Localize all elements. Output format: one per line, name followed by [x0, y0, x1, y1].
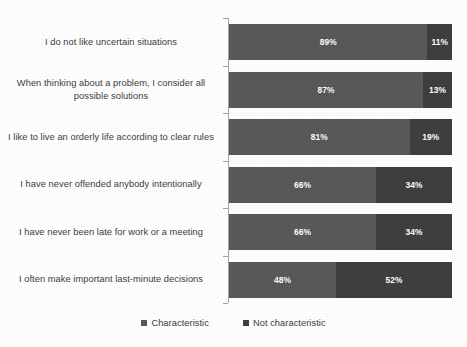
square-marker-icon [141, 320, 147, 326]
bar-value-label: 89% [320, 37, 337, 47]
category-label: I have never been late for work or a mee… [7, 226, 215, 238]
stacked-bar-chart: I do not like uncertain situations89%11%… [0, 0, 467, 347]
bar-segment-characteristic: 87% [229, 72, 423, 108]
stacked-bar: 66%34% [229, 167, 452, 203]
bar-value-label: 13% [429, 85, 446, 95]
legend-item[interactable]: Characteristic [141, 318, 209, 328]
bar-value-label: 11% [431, 37, 448, 47]
category-label: I often make important last-minute decis… [7, 273, 215, 285]
bar-segment-not-characteristic: 19% [410, 119, 452, 155]
stacked-bar: 87%13% [229, 72, 452, 108]
category-label: I do not like uncertain situations [7, 36, 215, 48]
square-marker-icon [243, 320, 249, 326]
bar-value-label: 81% [311, 132, 328, 142]
bar-value-label: 66% [294, 227, 311, 237]
bar-segment-not-characteristic: 34% [376, 214, 452, 250]
legend-label: Characteristic [151, 318, 209, 328]
bar-segment-characteristic: 66% [229, 167, 376, 203]
bar-segment-not-characteristic: 34% [376, 167, 452, 203]
stacked-bar: 48%52% [229, 262, 452, 298]
bar-segment-characteristic: 81% [229, 119, 410, 155]
plot-area: I do not like uncertain situations89%11%… [0, 0, 467, 312]
bar-row: I do not like uncertain situations89%11% [0, 18, 467, 66]
bar-row: When thinking about a problem, I conside… [0, 66, 467, 114]
bar-row: I have never offended anybody intentiona… [0, 161, 467, 209]
bar-value-label: 66% [294, 180, 311, 190]
bar-value-label: 87% [317, 85, 334, 95]
bar-row: I have never been late for work or a mee… [0, 208, 467, 256]
bar-segment-characteristic: 89% [229, 24, 427, 60]
bar-segment-not-characteristic: 13% [423, 72, 452, 108]
bar-value-label: 34% [406, 180, 423, 190]
bar-value-label: 52% [385, 275, 402, 285]
legend-item[interactable]: Not characteristic [243, 318, 326, 328]
stacked-bar: 89%11% [229, 24, 452, 60]
stacked-bar: 81%19% [229, 119, 452, 155]
category-label: I like to live an orderly life according… [7, 131, 215, 143]
stacked-bar: 66%34% [229, 214, 452, 250]
bar-segment-characteristic: 66% [229, 214, 376, 250]
bar-segment-not-characteristic: 11% [427, 24, 452, 60]
category-label: I have never offended anybody intentiona… [7, 178, 215, 190]
chart-legend: CharacteristicNot characteristic [0, 318, 467, 328]
bar-row: I often make important last-minute decis… [0, 256, 467, 304]
bar-row: I like to live an orderly life according… [0, 113, 467, 161]
bar-segment-not-characteristic: 52% [336, 262, 452, 298]
bar-value-label: 48% [274, 275, 291, 285]
legend-label: Not characteristic [253, 318, 326, 328]
bar-value-label: 34% [406, 227, 423, 237]
category-label: When thinking about a problem, I conside… [7, 77, 215, 102]
bar-value-label: 19% [422, 132, 439, 142]
bar-segment-characteristic: 48% [229, 262, 336, 298]
